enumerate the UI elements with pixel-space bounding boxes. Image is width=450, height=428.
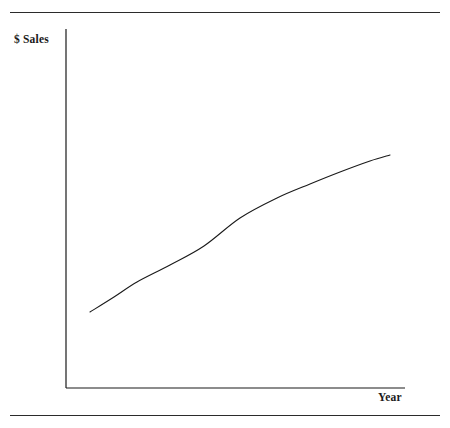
y-axis-title: $ Sales [14,34,49,46]
chart-canvas [0,0,450,428]
bottom-divider-rule [10,415,440,416]
x-axis-title: Year [378,392,402,404]
sales-vs-year-figure: $ Sales Year [0,0,450,428]
sales-curve [90,155,390,312]
